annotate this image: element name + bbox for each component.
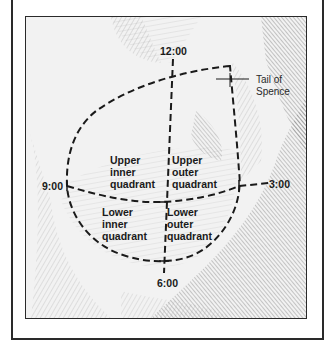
svg-text:outer: outer (167, 218, 193, 230)
clock-label-6: 6:00 (157, 277, 178, 289)
sketch-shading (26, 17, 306, 318)
svg-text:inner: inner (102, 218, 128, 230)
svg-text:quadrant: quadrant (167, 230, 212, 242)
tail-label-line2: Spence (256, 86, 290, 97)
svg-text:Upper: Upper (110, 154, 140, 166)
svg-text:inner: inner (110, 166, 136, 178)
clock-label-12: 12:00 (160, 45, 187, 57)
svg-text:quadrant: quadrant (102, 230, 147, 242)
svg-text:Lower: Lower (167, 206, 198, 218)
svg-text:quadrant: quadrant (172, 178, 217, 190)
clock-label-3: 3:00 (269, 178, 290, 190)
svg-text:Lower: Lower (102, 206, 133, 218)
svg-text:Upper: Upper (172, 154, 202, 166)
clock-label-9: 9:00 (42, 180, 63, 192)
svg-text:quadrant: quadrant (110, 178, 155, 190)
diagram-svg: 12:00 9:00 3:00 6:00 Tail of Spence Uppe… (26, 17, 306, 318)
tail-label-line1: Tail of (256, 74, 282, 85)
anatomical-figure: 12:00 9:00 3:00 6:00 Tail of Spence Uppe… (25, 16, 307, 319)
svg-text:outer: outer (172, 166, 198, 178)
